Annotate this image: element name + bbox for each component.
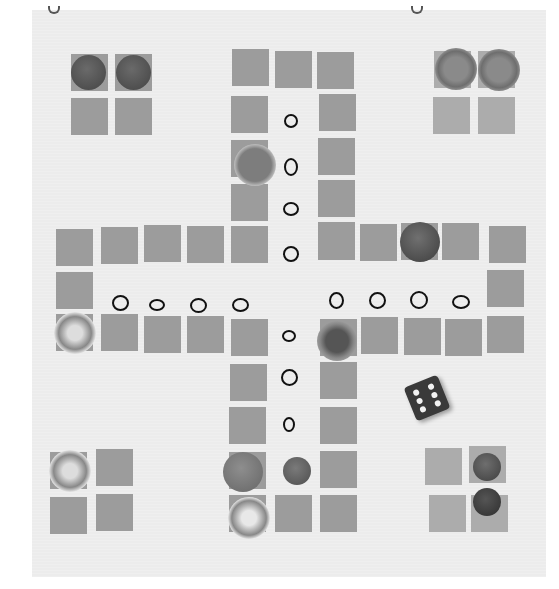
home-path-marker [281, 369, 298, 386]
track-square [318, 223, 355, 260]
game-piece-button[interactable] [223, 452, 263, 492]
track-square [230, 364, 267, 401]
game-piece-button[interactable] [478, 49, 520, 91]
home-path-marker [283, 202, 299, 216]
home-path-marker [190, 298, 207, 313]
track-square [231, 184, 268, 221]
die-pip [427, 383, 435, 391]
track-square [487, 316, 524, 353]
home-path-marker [112, 295, 129, 311]
track-square [187, 226, 224, 263]
home-square [115, 98, 152, 135]
track-square [318, 180, 355, 217]
track-square [144, 225, 181, 262]
track-square [320, 451, 357, 488]
home-square [425, 448, 462, 485]
track-square [320, 407, 357, 444]
game-board [32, 10, 546, 577]
die-pip [416, 397, 424, 405]
track-square [231, 319, 268, 356]
die-pip [412, 389, 420, 397]
home-square [478, 97, 515, 134]
track-square [275, 51, 312, 88]
track-square [320, 362, 357, 399]
track-square [317, 52, 354, 89]
game-piece-button[interactable] [473, 488, 501, 516]
home-path-marker [284, 114, 298, 128]
game-piece-button[interactable] [283, 457, 311, 485]
track-square [442, 223, 479, 260]
track-square [275, 495, 312, 532]
edge-glyph-fragment [411, 6, 423, 14]
track-square [318, 138, 355, 175]
track-square [144, 316, 181, 353]
home-path-marker [329, 292, 344, 309]
home-path-marker [284, 158, 298, 176]
track-square [101, 314, 138, 351]
home-path-marker [283, 246, 299, 262]
home-square [96, 494, 133, 531]
die-pip [434, 399, 442, 407]
game-piece-button[interactable] [400, 222, 440, 262]
track-square [56, 229, 93, 266]
track-square [489, 226, 526, 263]
home-square [433, 97, 470, 134]
track-square [320, 495, 357, 532]
track-square [404, 318, 441, 355]
home-path-marker [149, 299, 165, 311]
track-square [229, 407, 266, 444]
track-square [56, 272, 93, 309]
home-path-marker [232, 298, 249, 312]
track-square [231, 226, 268, 263]
track-square [445, 319, 482, 356]
home-path-marker [369, 292, 386, 309]
home-path-marker [282, 330, 296, 342]
game-piece-button[interactable] [228, 497, 270, 539]
home-square [96, 449, 133, 486]
game-piece-button[interactable] [116, 55, 151, 90]
die[interactable] [404, 375, 451, 422]
die-pip [419, 405, 427, 413]
home-square [71, 98, 108, 135]
track-square [487, 270, 524, 307]
home-path-marker [410, 291, 428, 309]
game-piece-button[interactable] [49, 450, 91, 492]
die-pip [431, 391, 439, 399]
home-square [429, 495, 466, 532]
track-square [360, 224, 397, 261]
game-piece-button[interactable] [54, 312, 96, 354]
edge-glyph-fragment [48, 6, 60, 14]
home-path-marker [452, 295, 470, 309]
game-piece-button[interactable] [317, 321, 357, 361]
home-path-marker [283, 417, 295, 432]
track-square [232, 49, 269, 86]
game-piece-button[interactable] [234, 144, 276, 186]
game-piece-button[interactable] [71, 55, 106, 90]
track-square [101, 227, 138, 264]
track-square [231, 96, 268, 133]
game-piece-button[interactable] [435, 48, 477, 90]
track-square [187, 316, 224, 353]
game-piece-button[interactable] [473, 453, 501, 481]
track-square [361, 317, 398, 354]
home-square [50, 497, 87, 534]
track-square [319, 94, 356, 131]
